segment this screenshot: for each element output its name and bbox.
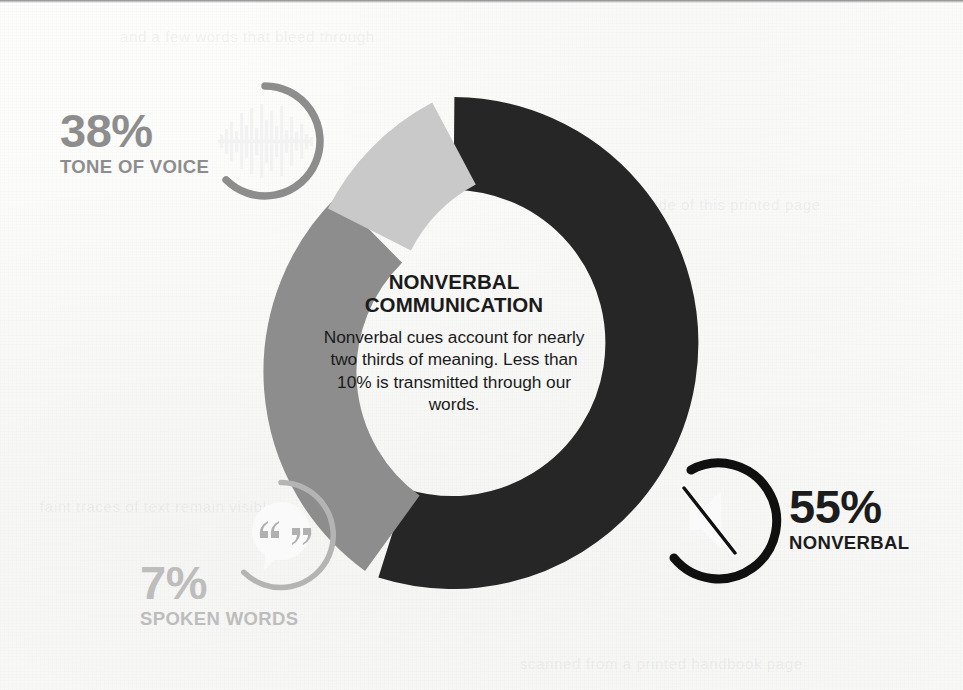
- stat-label: SPOKEN WORDS: [140, 608, 298, 630]
- stat-value: 38%: [60, 108, 209, 153]
- stat-value: 7%: [140, 560, 298, 605]
- ghost-text: and a few words that bleed through: [120, 28, 375, 45]
- page-edge-line: [0, 0, 963, 3]
- audio-waveform-icon: [203, 79, 327, 203]
- stat-spoken-words: 7% SPOKEN WORDS: [140, 560, 298, 630]
- stat-label: NONVERBAL: [789, 532, 909, 554]
- center-title: NONVERBAL COMMUNICATION: [318, 271, 590, 317]
- donut-slice-spoken: [369, 144, 454, 230]
- stat-nonverbal: 55% NONVERBAL: [789, 484, 909, 554]
- muted-speaker-icon: [651, 454, 783, 586]
- infographic-canvas: and a few words that bleed through the r…: [0, 0, 963, 690]
- ghost-text: scanned from a printed handbook page: [520, 655, 803, 672]
- center-title-line-1: NONVERBAL: [318, 271, 590, 294]
- donut-center-text: NONVERBAL COMMUNICATION Nonverbal cues a…: [318, 271, 590, 415]
- center-body-text: Nonverbal cues account for nearly two th…: [318, 326, 590, 415]
- stat-value: 55%: [789, 484, 909, 529]
- stat-tone-of-voice: 38% TONE OF VOICE: [60, 108, 209, 178]
- center-title-line-2: COMMUNICATION: [318, 294, 590, 317]
- stat-label: TONE OF VOICE: [60, 156, 209, 178]
